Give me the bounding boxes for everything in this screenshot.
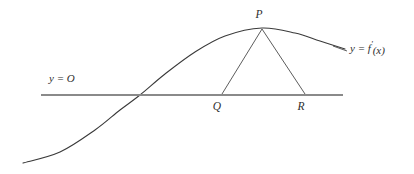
axis-label: y = O: [48, 72, 75, 84]
figure-background: [0, 0, 414, 174]
point-p-label: P: [254, 8, 262, 20]
curve-label-lhs: y = f: [349, 42, 373, 54]
derivative-graph-figure: P Q R y = O y = f'(x): [0, 0, 414, 174]
curve-label-arg: (x): [373, 44, 386, 57]
point-r-label: R: [296, 100, 304, 112]
point-q-label: Q: [213, 100, 222, 112]
